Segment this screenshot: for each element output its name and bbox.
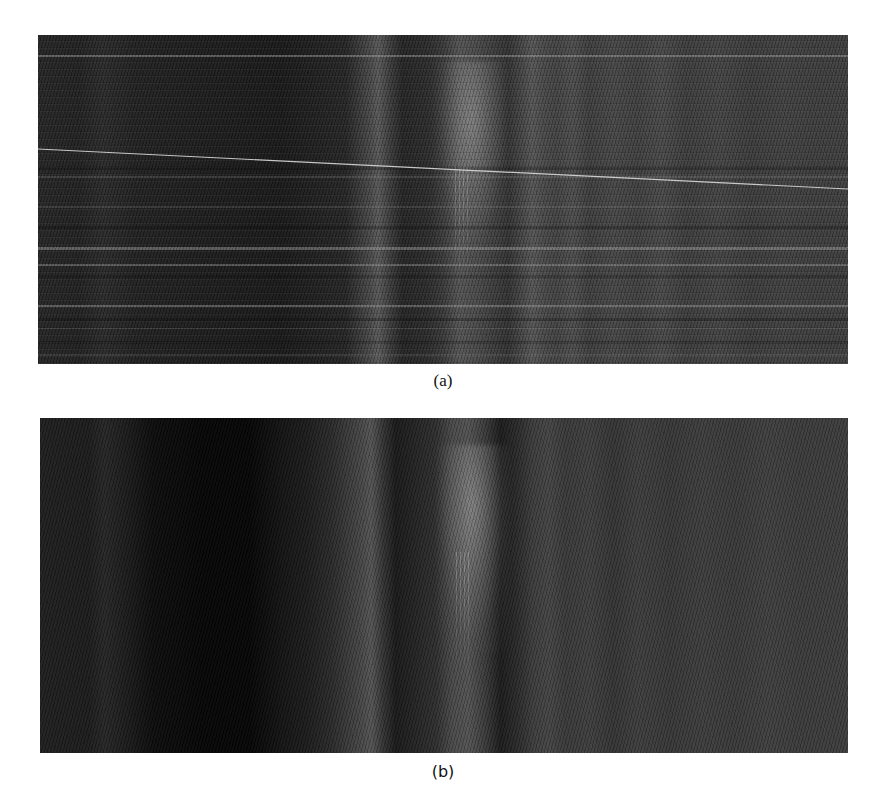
caption-b: (b)	[413, 762, 473, 781]
noise-texture	[38, 35, 848, 364]
caption-a: (a)	[413, 371, 473, 391]
figure-panel-a	[38, 35, 848, 364]
figure-panel-b	[40, 418, 848, 753]
noise-texture	[40, 418, 848, 753]
